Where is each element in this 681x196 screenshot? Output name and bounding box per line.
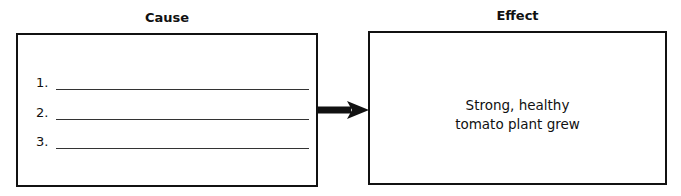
effect-box: Strong, healthy tomato plant grew	[368, 31, 667, 185]
effect-title: Effect	[368, 8, 667, 23]
cause-item-number: 3.	[36, 134, 54, 149]
cause-item-number: 1.	[36, 75, 54, 90]
effect-text-line-2: tomato plant grew	[370, 115, 665, 134]
right-arrow-icon	[317, 100, 371, 120]
cause-box: 1. 2. 3.	[16, 33, 318, 187]
cause-blank-line[interactable]	[56, 107, 309, 120]
cause-item-2[interactable]: 2.	[36, 105, 309, 120]
cause-item-1[interactable]: 1.	[36, 75, 309, 90]
cause-item-3[interactable]: 3.	[36, 134, 309, 149]
cause-item-number: 2.	[36, 105, 54, 120]
cause-blank-line[interactable]	[56, 77, 309, 90]
cause-blank-line[interactable]	[56, 136, 309, 149]
effect-text: Strong, healthy tomato plant grew	[370, 96, 665, 134]
cause-title: Cause	[16, 10, 318, 25]
effect-text-line-1: Strong, healthy	[370, 96, 665, 115]
